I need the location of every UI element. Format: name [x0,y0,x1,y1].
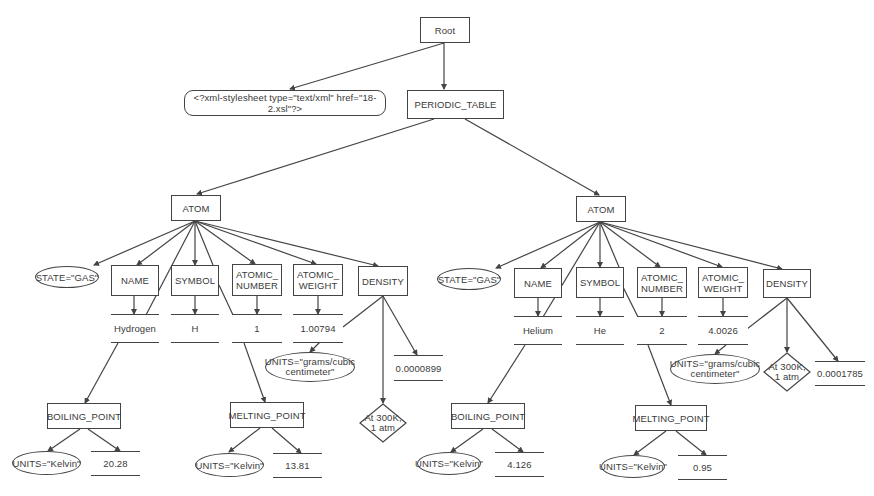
melting-units-attribute-helium: UNITS="Kelvin" [601,455,665,478]
density-comment-hydrogen: At 300K, 1 atm [359,403,407,443]
edges-layer [0,0,874,496]
boiling-text-helium: 4.126 [495,452,544,477]
boiling-units-attribute-hydrogen: UNITS="Kelvin" [12,451,81,475]
density-units-line2: centimeter" [286,367,335,377]
atomic-weight-element-hydrogen: ATOMIC_ WEIGHT [293,264,343,296]
boiling-point-element-hydrogen: BOILING_POINT [47,403,121,429]
atom-node-helium: ATOM [576,196,626,222]
atomic-weight-label-line1: ATOMIC_ [297,269,339,280]
density-element-helium: DENSITY [763,269,811,298]
state-attribute-helium: STATE="GAS" [437,268,501,290]
comment-line2: 1 atm [775,372,799,382]
name-element-helium: NAME [514,268,562,298]
stylesheet-pi-node: <?xml-stylesheet type="text/xml" href="1… [184,90,386,116]
density-comment-helium: At 300K, 1 atm [763,352,811,392]
melting-units-attribute-hydrogen: UNITS="Kelvin" [195,453,264,477]
melting-text-hydrogen: 13.81 [273,453,322,478]
state-attribute-hydrogen: STATE="GAS" [35,266,99,288]
atomic-weight-label-line2: WEIGHT [299,280,338,291]
name-text-helium: Helium [514,316,562,345]
symbol-text-helium: He [576,316,624,345]
atomic-number-element-helium: ATOMIC_ NUMBER [637,267,687,298]
atomic-number-text-helium: 2 [637,316,687,345]
symbol-element-hydrogen: SYMBOL [171,265,219,296]
symbol-element-helium: SYMBOL [576,267,624,298]
atomic-weight-text-hydrogen: 1.00794 [293,314,343,343]
atomic-weight-label-line2: WEIGHT [704,283,743,294]
atom-node-hydrogen: ATOM [171,195,221,221]
melting-point-element-helium: MELTING_POINT [635,405,707,431]
atomic-weight-text-helium: 4.0026 [698,316,748,345]
density-units-attribute-hydrogen: UNITS="grams/cubic centimeter" [265,352,355,382]
atomic-weight-element-helium: ATOMIC_ WEIGHT [698,267,748,298]
comment-line2: 1 atm [371,423,395,433]
melting-text-helium: 0.95 [678,455,727,480]
melting-point-element-hydrogen: MELTING_POINT [230,402,304,428]
name-element-hydrogen: NAME [111,265,159,296]
atomic-number-text-hydrogen: 1 [232,314,282,343]
density-element-hydrogen: DENSITY [358,266,408,296]
atomic-weight-label-line1: ATOMIC_ [702,272,744,283]
root-node: Root [420,17,470,43]
atomic-number-label-line1: ATOMIC_ [236,269,278,280]
density-text-helium: 0.0001785 [815,361,865,386]
name-text-hydrogen: Hydrogen [111,314,159,343]
periodic-table-node: PERIODIC_TABLE [407,90,504,119]
boiling-text-hydrogen: 20.28 [91,451,140,476]
atomic-number-label-line2: NUMBER [236,280,278,291]
atomic-number-label-line2: NUMBER [641,283,683,294]
density-units-attribute-helium: UNITS="grams/cubic centimeter" [670,354,760,384]
atomic-number-element-hydrogen: ATOMIC_ NUMBER [232,264,282,296]
symbol-text-hydrogen: H [171,314,219,343]
density-text-hydrogen: 0.0000899 [394,355,443,381]
density-units-line2: centimeter" [691,369,740,379]
boiling-units-attribute-helium: UNITS="Kelvin" [417,452,481,475]
atomic-number-label-line1: ATOMIC_ [641,272,683,283]
boiling-point-element-helium: BOILING_POINT [451,403,525,429]
